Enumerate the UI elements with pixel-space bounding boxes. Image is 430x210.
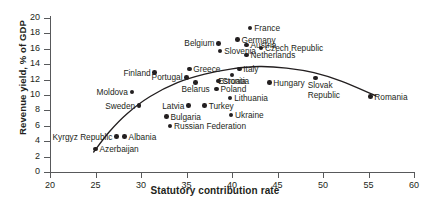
data-point [235,37,240,42]
data-point-label: Czech Republic [265,44,323,53]
data-point [187,67,192,72]
data-point-label: Turkey [209,101,234,110]
data-point-label: Belarus [182,85,210,94]
data-point-label: Azerbaijan [100,144,139,153]
data-point-label: Portugal [152,73,183,82]
data-point [244,53,249,58]
data-point [237,67,242,72]
data-point-label: Moldova [97,87,128,96]
data-point [202,103,207,108]
data-point-label: Sweden [105,101,135,110]
data-point [122,134,127,139]
data-point-label: Slovak Republic [308,81,350,100]
data-point-label: Hungary [273,78,304,87]
data-point-label: Kyrgyz Republic [52,132,112,141]
data-point-label: Estonia [218,77,246,86]
data-point-label: Italy [243,64,258,73]
data-point-label: Lithuania [234,94,268,103]
data-point [267,80,272,85]
data-point [244,43,249,48]
data-point-label: France [254,24,280,33]
data-point-label: Finland [123,68,150,77]
scatter-chart: Revenue yield, % of GDP Statutory contri… [0,0,430,210]
data-point [214,87,219,92]
data-point [186,103,191,108]
data-point-label: Albania [129,132,157,141]
data-point-label: Belgium [184,39,214,48]
data-point [216,41,221,46]
data-point-label: Ukraine [235,111,264,120]
data-point-label: Romania [374,92,407,101]
data-point-label: Latvia [162,101,184,110]
data-point-label: Russian Federation [174,121,246,130]
data-point [114,134,119,139]
data-point [93,147,98,152]
data-point [368,94,373,99]
data-point [164,114,169,119]
data-point-label: Greece [193,64,220,73]
data-point [184,75,189,80]
